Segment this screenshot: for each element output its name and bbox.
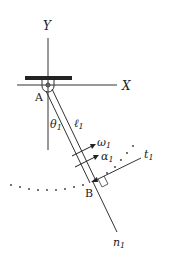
angular-velocity-label: ω1 bbox=[97, 136, 111, 150]
rod-edge-left bbox=[46, 91, 90, 183]
angular-accel-label: α1 bbox=[101, 150, 114, 164]
ceiling-support bbox=[25, 76, 72, 80]
tangent-label: t1 bbox=[144, 148, 154, 162]
right-angle-marker bbox=[98, 176, 108, 187]
trajectory-dots bbox=[10, 145, 134, 191]
pendulum-diagram: Y X A n1 θ1 ℓ1 ω1 α1 t1 B bbox=[0, 0, 170, 257]
x-axis-label: X bbox=[121, 79, 131, 93]
normal-line bbox=[93, 182, 117, 232]
length-label: ℓ1 bbox=[74, 117, 84, 131]
point-b-label: B bbox=[85, 187, 93, 200]
normal-label: n1 bbox=[113, 236, 125, 250]
rod-edge-right bbox=[52, 89, 96, 181]
tangent-line bbox=[92, 158, 141, 182]
y-axis-label: Y bbox=[43, 19, 52, 33]
point-a-label: A bbox=[34, 91, 44, 104]
